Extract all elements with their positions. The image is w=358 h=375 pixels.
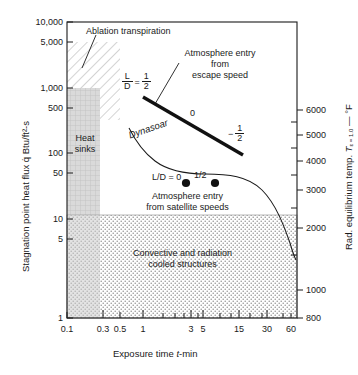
annotation-ablation-transpiration: Ablation transpiration xyxy=(86,26,171,36)
annotation-convective-cooled-line2: cooled structures xyxy=(105,259,260,270)
y2-tick-800: 800 xyxy=(306,313,321,323)
annotation-ld-0: L/D = 0 xyxy=(152,172,181,182)
y-tick-50: 50 xyxy=(10,168,63,178)
annotation-convective-cooled-line1: Convective and radiation xyxy=(105,248,260,259)
x-tick-5: 5 xyxy=(189,324,217,334)
x-tick-15: 15 xyxy=(225,324,253,334)
annotation-escape-speed-line3: escape speed xyxy=(165,70,275,81)
x-axis-title-units: -min xyxy=(179,348,197,359)
y2-axis-title-units: — °F xyxy=(343,104,354,128)
y-tick-10000: 10,000 xyxy=(10,17,63,27)
annotation-satellite-speeds: Atmosphere entry from satellite speeds xyxy=(125,191,250,213)
y-tick-5000: 5,000 xyxy=(10,37,63,47)
y2-axis-title-symbol: T xyxy=(343,147,354,153)
y2-axis-title-subscript: ε = 1.0 xyxy=(348,129,354,147)
y2-tick-1000: 1000 xyxy=(306,285,326,295)
x-axis-title: Exposure time t-min xyxy=(113,348,198,359)
y-tick-1: 1 xyxy=(10,313,63,323)
x-tick-1: 1 xyxy=(129,324,157,334)
chart-figure: 10,000 5,000 1,000 500 100 50 10 5 1 0.1… xyxy=(0,0,358,375)
x-tick-0.1: 0.1 xyxy=(53,324,81,334)
y-tick-5: 5 xyxy=(10,234,63,244)
ld-ratio-equals: = xyxy=(135,77,140,87)
y-tick-1000: 1,000 xyxy=(10,83,63,93)
x-tick-60: 60 xyxy=(277,324,305,334)
y2-tick-6000: 6000 xyxy=(306,105,326,115)
y2-tick-5000: 5000 xyxy=(306,130,326,140)
annotation-line-exponent-minus-half: − 1 2 xyxy=(228,124,244,143)
y2-tick-4000: 4000 xyxy=(306,156,326,166)
annotation-ld-ratio: L D = 1 2 xyxy=(122,72,151,91)
y2-tick-2000: 2000 xyxy=(306,223,326,233)
annotation-satellite-speeds-line2: from satellite speeds xyxy=(125,202,250,213)
data-point-ld-half xyxy=(211,179,219,187)
annotation-ld-half: 1/2 xyxy=(194,170,207,180)
annotation-escape-speed-line2: from xyxy=(165,59,275,70)
y2-tick-3000: 3000 xyxy=(306,185,326,195)
y-tick-10: 10 xyxy=(10,214,63,224)
ld-ratio-fraction: L D xyxy=(122,72,133,91)
annotation-heat-sinks-line2: sinks xyxy=(69,144,101,155)
x-axis-title-prefix: Exposure time xyxy=(113,348,176,359)
annotation-escape-speed: Atmosphere entry from escape speed xyxy=(165,48,275,80)
minus-sign: − xyxy=(228,129,233,139)
region-heat-sinks-lower-overlap xyxy=(67,215,100,318)
data-point-ld-0 xyxy=(182,179,190,187)
ld-ratio-denominator: D xyxy=(122,82,133,91)
annotation-satellite-speeds-line1: Atmosphere entry xyxy=(125,191,250,202)
annotation-convective-cooled: Convective and radiation cooled structur… xyxy=(105,248,260,270)
annotation-heat-sinks: Heat sinks xyxy=(69,133,101,155)
annotation-heat-sinks-line1: Heat xyxy=(69,133,101,144)
minus-half-fraction: 1 2 xyxy=(235,124,244,143)
ld-ratio-value-fraction: 1 2 xyxy=(142,72,151,91)
y-tick-100: 100 xyxy=(10,148,63,158)
ld-ratio-value-denominator: 2 xyxy=(142,82,151,91)
y2-axis-title-prefix: Rad. equilibrium temp. xyxy=(343,152,354,250)
y2-axis-title: Rad. equilibrium temp. Tε = 1.0 — °F xyxy=(343,104,354,250)
y-axis-title-text: Stagnation point heat flux q̇ Btu/ft²-s xyxy=(20,121,31,272)
y-axis-title: Stagnation point heat flux q̇ Btu/ft²-s xyxy=(20,121,31,272)
annotation-escape-speed-line1: Atmosphere entry xyxy=(165,48,275,59)
annotation-line-exponent-zero: 0 xyxy=(190,108,195,118)
minus-half-denominator: 2 xyxy=(235,134,244,143)
y-tick-500: 500 xyxy=(10,103,63,113)
